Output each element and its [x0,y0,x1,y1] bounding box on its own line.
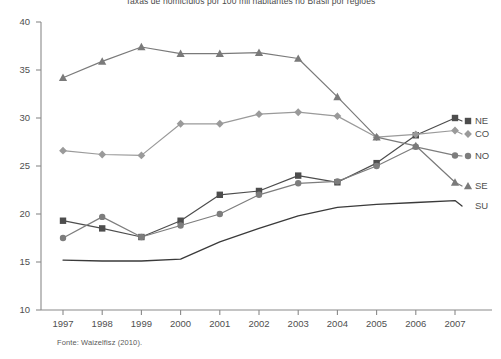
data-point-marker [295,172,301,178]
data-point-marker [217,192,223,198]
data-point-marker [59,147,67,155]
data-point-marker [60,218,66,224]
legend-item-no: NO [475,150,489,161]
data-point-marker [216,120,224,128]
data-point-marker [452,152,458,158]
y-axis-tick-35: 35 [6,64,30,75]
data-point-marker [373,163,379,169]
source-note: Fonte: Waizelfisz (2010). [57,338,142,347]
chart-series-ne [60,115,462,240]
data-point-marker [451,127,459,135]
y-axis-tick-15: 15 [6,256,30,267]
data-point-marker [452,115,458,121]
chart-series-no [60,144,462,242]
data-point-marker [255,110,263,118]
x-axis-tick-2007: 2007 [435,318,475,329]
legend-marker-co [464,130,472,138]
y-axis-tick-10: 10 [6,304,30,315]
x-axis-tick-1998: 1998 [82,318,122,329]
chart-series-co [59,108,462,159]
x-axis-tick-2001: 2001 [200,318,240,329]
data-point-marker [177,222,183,228]
y-axis-tick-30: 30 [6,112,30,123]
x-axis-tick-2004: 2004 [317,318,357,329]
legend-marker-no [465,153,471,159]
data-point-marker [256,192,262,198]
legend-item-ne: NE [475,115,488,126]
y-axis-tick-25: 25 [6,160,30,171]
data-point-marker [59,74,67,81]
data-point-marker [99,225,105,231]
x-axis-tick-1997: 1997 [43,318,83,329]
data-point-marker [294,108,302,116]
data-point-marker [217,211,223,217]
chart-axes [36,22,492,315]
legend-markers [464,118,472,190]
legend-item-co: CO [475,128,489,139]
y-axis-tick-20: 20 [6,208,30,219]
data-point-marker [138,234,144,240]
data-point-marker [60,235,66,241]
data-point-marker [334,112,342,120]
data-point-marker [334,178,340,184]
x-axis-tick-1999: 1999 [121,318,161,329]
chart-series-su [63,201,462,261]
data-point-marker [99,214,105,220]
x-axis-tick-2005: 2005 [357,318,397,329]
chart-container: Taxas de homicídios por 100 mil habitant… [0,0,501,359]
legend-item-se: SE [475,180,488,191]
data-point-marker [295,180,301,186]
x-axis-tick-2002: 2002 [239,318,279,329]
x-axis-tick-2000: 2000 [161,318,201,329]
data-point-marker [98,151,106,159]
data-point-marker [137,43,145,50]
legend-marker-se [464,182,472,189]
x-axis-tick-2003: 2003 [278,318,318,329]
legend-item-su: SU [475,200,488,211]
data-point-marker [98,57,106,64]
chart-title: Taxas de homicídios por 100 mil habitant… [0,0,501,6]
legend-marker-ne [465,118,471,124]
x-axis-tick-2006: 2006 [396,318,436,329]
y-axis-tick-40: 40 [6,16,30,27]
chart-plot-area [0,0,501,359]
